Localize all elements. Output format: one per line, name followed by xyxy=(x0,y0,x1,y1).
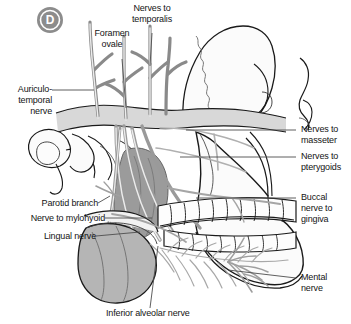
label-auriculotemporal-nerve: Auriculo- temporal nerve xyxy=(0,84,52,117)
mandible-nerve-illustration xyxy=(0,0,351,324)
submandibular-gland xyxy=(78,211,158,303)
label-nerves-to-masseter: Nerves to masseter xyxy=(301,124,351,146)
label-inferior-alveolar-nerve: Inferior alveolar nerve xyxy=(106,308,236,319)
panel-letter: D xyxy=(38,13,62,27)
label-foramen-ovale: Foramen ovale xyxy=(76,28,148,50)
label-nerve-to-mylohyoid: Nerve to mylohyoid xyxy=(0,213,105,224)
label-lingual-nerve: Lingual nerve xyxy=(14,231,96,242)
anatomy-figure: D Nerves to temporalis Foramen ovale Aur… xyxy=(0,0,351,324)
label-nerves-to-temporalis: Nerves to temporalis xyxy=(108,3,196,25)
label-mental-nerve: Mental nerve xyxy=(301,272,351,294)
label-buccal-nerve-to-gingiva: Buccal nerve to gingiva xyxy=(301,192,351,225)
label-nerves-to-pterygoids: Nerves to pterygoids xyxy=(301,151,351,173)
label-parotid-branch: Parotid branch xyxy=(8,198,98,209)
